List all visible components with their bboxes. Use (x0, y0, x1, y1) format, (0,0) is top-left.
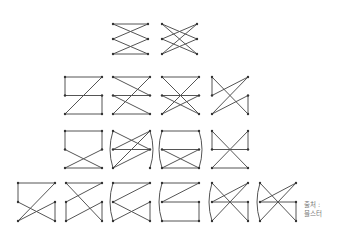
graph-vertex (198, 167, 200, 169)
graph-vertex (198, 113, 200, 115)
graph-vertex (17, 182, 19, 184)
graph-vertex (64, 148, 66, 150)
graph-vertex (147, 23, 149, 25)
graph-vertex (161, 201, 163, 203)
graph-vertex (161, 130, 163, 132)
graph-vertex (101, 220, 103, 222)
graph-vertex (112, 53, 114, 55)
graph-vertex (101, 113, 103, 115)
graph-figure (161, 76, 200, 115)
graph-vertex (161, 148, 163, 150)
graph-edge (18, 183, 55, 221)
graph-figure (65, 182, 103, 222)
graph-vertex (54, 201, 56, 203)
graph-vertex (247, 201, 249, 203)
graph-figure (17, 182, 56, 222)
graph-vertex (149, 201, 151, 203)
graph-vertex (247, 148, 249, 150)
graph-figure (159, 130, 202, 169)
graph-vertex (149, 167, 151, 169)
graph-edge (66, 183, 102, 202)
graph-vertex (54, 220, 56, 222)
graph-vertex (211, 113, 213, 115)
graph-vertex (112, 76, 114, 78)
graph-vertex (112, 38, 114, 40)
graph-vertex (101, 167, 103, 169)
graph-vertex (259, 201, 261, 203)
graph-vertex (149, 130, 151, 132)
graph-vertex (211, 94, 213, 96)
graph-edge (113, 77, 150, 96)
graph-vertex (211, 182, 213, 184)
caption-line-2: 블스터 (304, 210, 322, 219)
graph-vertex (161, 38, 163, 40)
graph-vertex (64, 130, 66, 132)
graph-vertex (211, 167, 213, 169)
graph-vertex (196, 23, 198, 25)
graph-vertex (247, 220, 249, 222)
graph-vertex (65, 220, 67, 222)
graph-vertex (17, 220, 19, 222)
graph-vertex (161, 167, 163, 169)
graph-vertex (149, 76, 151, 78)
graph-vertex (211, 148, 213, 150)
graph-vertex (147, 53, 149, 55)
graph-edge (113, 183, 150, 202)
graph-figure (211, 76, 249, 115)
graph-vertex (295, 220, 297, 222)
graph-vertex (247, 94, 249, 96)
graph-vertex (149, 182, 151, 184)
graph-figure (110, 182, 151, 222)
graph-vertex (161, 53, 163, 55)
graph-vertex (247, 76, 249, 78)
graph-vertex (198, 148, 200, 150)
graph-vertex (101, 76, 103, 78)
graph-figure (159, 182, 200, 222)
graph-figure (257, 182, 297, 222)
graph-figure (161, 23, 198, 55)
source-caption: 출처 : 블스터 (304, 201, 322, 219)
graph-edge (113, 96, 150, 115)
graph-edge (113, 150, 150, 169)
graph-vertex (64, 167, 66, 169)
graph-vertex (65, 182, 67, 184)
graph-vertex (112, 23, 114, 25)
graph-vertex (196, 53, 198, 55)
graph-vertex (149, 148, 151, 150)
graph-vertex (149, 113, 151, 115)
graph-vertex (101, 130, 103, 132)
graph-vertex (247, 167, 249, 169)
graph-vertex (112, 182, 114, 184)
graph-vertex (196, 38, 198, 40)
graph-vertex (64, 94, 66, 96)
graph-vertex (112, 201, 114, 203)
graph-vertex (161, 220, 163, 222)
graph-vertex (247, 113, 249, 115)
graph-vertex (211, 76, 213, 78)
graph-edge (260, 183, 296, 202)
graph-vertex (211, 220, 213, 222)
graph-edge (212, 77, 248, 96)
graph-vertex (64, 76, 66, 78)
graph-vertex (112, 130, 114, 132)
graph-vertex (149, 94, 151, 96)
graph-figure (112, 23, 149, 55)
graph-vertex (198, 182, 200, 184)
graph-vertex (211, 201, 213, 203)
graph-vertex (198, 94, 200, 96)
graph-figure (112, 76, 151, 115)
graph-vertex (112, 167, 114, 169)
graph-vertex (161, 76, 163, 78)
graph-vertex (147, 38, 149, 40)
graph-vertex (64, 113, 66, 115)
graph-vertex (161, 23, 163, 25)
graph-vertex (198, 130, 200, 132)
graph-figure (211, 130, 249, 169)
graph-edge (162, 183, 199, 202)
graph-edge (66, 202, 102, 221)
graph-edge (212, 183, 248, 202)
graph-vertex (259, 182, 261, 184)
graph-vertex (161, 113, 163, 115)
graph-vertex (112, 113, 114, 115)
graph-vertex (101, 94, 103, 96)
